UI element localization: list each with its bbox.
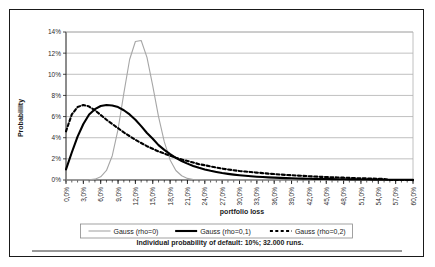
legend-label-0: Gauss (rho=0) xyxy=(114,228,159,236)
x-axis-ticks: 0,0%3,0%6,0%9,0%12,0%15,0%18,0%21,0%24,0… xyxy=(63,180,417,205)
x-axis-tick-label: 48,0% xyxy=(340,187,347,206)
y-axis-tick-label: 14% xyxy=(48,28,61,35)
x-axis-tick-label: 57,0% xyxy=(392,187,399,206)
y-axis-tick-label: 12% xyxy=(48,50,61,57)
x-axis-tick-label: 51,0% xyxy=(358,187,365,206)
x-axis-tick-label: 54,0% xyxy=(375,187,382,206)
y-axis-tick-label: 8% xyxy=(52,92,62,99)
y-axis-tick-label: 4% xyxy=(52,134,62,141)
chart-caption: Individual probability of default: 10%; … xyxy=(137,239,304,247)
x-axis-tick-label: 3,0% xyxy=(80,187,87,202)
y-axis-tick-label: 0% xyxy=(52,176,62,183)
legend-label-2: Gauss (rho=0,2) xyxy=(295,228,346,236)
x-axis-tick-label: 15,0% xyxy=(149,187,156,206)
x-axis-tick-label: 30,0% xyxy=(236,187,243,206)
x-axis-tick-label: 6,0% xyxy=(97,187,104,202)
legend-label-1: Gauss (rho=0,1) xyxy=(200,228,251,236)
x-axis-tick-label: 33,0% xyxy=(253,187,260,206)
chart-legend: Gauss (rho=0)Gauss (rho=0,1)Gauss (rho=0… xyxy=(81,224,353,238)
x-axis-title: portfolio loss xyxy=(220,208,264,216)
x-axis-tick-label: 21,0% xyxy=(184,187,191,206)
x-axis-tick-label: 60,0% xyxy=(410,187,417,206)
x-axis-tick-label: 0,0% xyxy=(63,187,70,202)
x-axis-tick-label: 18,0% xyxy=(167,187,174,206)
y-axis-tick-label: 2% xyxy=(52,155,62,162)
y-axis-tick-label: 10% xyxy=(48,71,61,78)
x-axis-tick-label: 27,0% xyxy=(219,187,226,206)
x-axis-tick-label: 45,0% xyxy=(323,187,330,206)
y-axis-tick-label: 6% xyxy=(52,113,62,120)
x-axis-tick-label: 39,0% xyxy=(288,187,295,206)
portfolio-loss-distribution-chart: 0%2%4%6%8%10%12%14% 0,0%3,0%6,0%9,0%12,0… xyxy=(10,10,423,256)
y-axis-ticks: 0%2%4%6%8%10%12%14% xyxy=(48,28,66,183)
x-axis-tick-label: 36,0% xyxy=(271,187,278,206)
chart-frame: 0%2%4%6%8%10%12%14% 0,0%3,0%6,0%9,0%12,0… xyxy=(9,9,424,257)
y-axis-title: Probabililty xyxy=(17,99,25,137)
x-axis-tick-label: 42,0% xyxy=(306,187,313,206)
x-axis-tick-label: 12,0% xyxy=(132,187,139,206)
x-axis-tick-label: 24,0% xyxy=(201,187,208,206)
x-axis-tick-label: 9,0% xyxy=(115,187,122,202)
